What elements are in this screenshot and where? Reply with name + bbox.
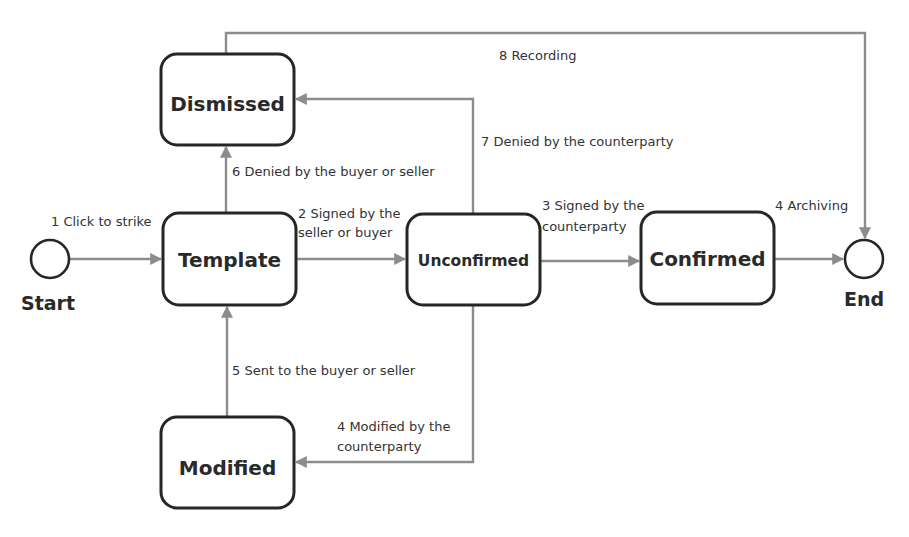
state-diagram: Start End Template Dismissed Unconfirmed…: [0, 0, 909, 537]
edge-unconfirmed-to-dismissed: [296, 99, 473, 214]
state-confirmed-label: Confirmed: [649, 247, 765, 271]
edge-label-3: 3 Signed by the counterparty: [542, 198, 649, 234]
state-confirmed[interactable]: Confirmed: [641, 212, 774, 304]
start-circle: [31, 240, 69, 278]
edge-label-2: 2 Signed by the seller or buyer: [298, 206, 405, 240]
state-unconfirmed-label: Unconfirmed: [418, 252, 529, 270]
end-terminal[interactable]: End: [844, 240, 884, 310]
state-modified[interactable]: Modified: [161, 417, 294, 508]
start-label: Start: [21, 292, 75, 314]
state-dismissed[interactable]: Dismissed: [161, 54, 294, 145]
state-modified-label: Modified: [179, 456, 277, 480]
edge-label-4-modified: 4 Modified by the counterparty: [337, 419, 455, 454]
edge-label-6: 6 Denied by the buyer or seller: [232, 164, 435, 179]
state-template-label: Template: [178, 248, 281, 272]
start-terminal[interactable]: Start: [21, 240, 75, 314]
edge-label-7: 7 Denied by the counterparty: [481, 134, 674, 149]
state-template[interactable]: Template: [163, 213, 296, 305]
state-unconfirmed[interactable]: Unconfirmed: [407, 214, 540, 305]
edge-label-8: 8 Recording: [499, 48, 576, 63]
end-circle: [845, 240, 883, 278]
edge-label-4-archiving: 4 Archiving: [775, 198, 848, 213]
edge-label-5: 5 Sent to the buyer or seller: [232, 363, 416, 378]
end-label: End: [844, 288, 884, 310]
state-dismissed-label: Dismissed: [170, 92, 285, 116]
edge-label-1: 1 Click to strike: [51, 214, 152, 229]
